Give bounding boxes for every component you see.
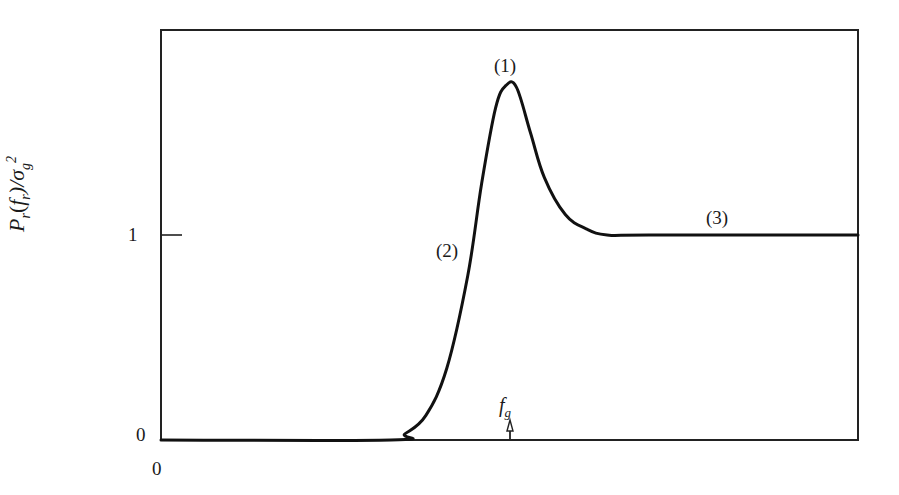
fg-arrow-icon <box>507 420 513 440</box>
annotation-plateau: (3) <box>706 207 728 229</box>
x-tick-label-0: 0 <box>152 458 162 480</box>
y-axis-label: Pr(fr)/σg2 <box>4 156 34 232</box>
y-tick-label-1: 1 <box>128 224 138 246</box>
annotation-rise: (2) <box>436 240 458 262</box>
y-tick-label-0: 0 <box>136 424 146 446</box>
data-curve <box>161 82 858 441</box>
annotation-peak: (1) <box>494 55 516 77</box>
fg-marker-label: fg <box>499 394 511 421</box>
